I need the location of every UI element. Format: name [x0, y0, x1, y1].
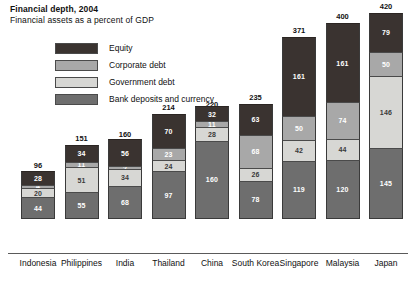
bar-segment-bank[interactable]: 78 [239, 181, 273, 219]
x-axis-line [8, 253, 408, 254]
segment-value-label: 79 [382, 29, 390, 36]
segment-value-label: 51 [77, 177, 85, 184]
bar-segment-equity[interactable]: 79 [369, 13, 403, 52]
segment-value-label: 68 [121, 199, 129, 206]
segment-value-label: 70 [164, 128, 172, 135]
bar-segment-corp[interactable]: 23 [152, 148, 186, 159]
bar-philippines[interactable]: 15134115155 [65, 145, 99, 219]
segment-value-label: 20 [34, 190, 42, 197]
segment-value-label: 161 [293, 73, 305, 80]
bar-total-label: 214 [152, 103, 186, 112]
segment-value-label: 26 [251, 171, 259, 178]
bar-segment-gov[interactable]: 34 [108, 169, 142, 186]
bar-total-label: 96 [21, 161, 55, 170]
bar-segment-gov[interactable]: 51 [65, 167, 99, 192]
bar-indonesia[interactable]: 962842044 [21, 171, 55, 219]
bar-total-label: 420 [369, 2, 403, 11]
bar-segment-equity[interactable]: 70 [152, 114, 186, 148]
segment-value-label: 74 [338, 117, 346, 124]
bar-segment-bank[interactable]: 68 [108, 186, 142, 219]
bar-segment-gov[interactable]: 26 [239, 168, 273, 181]
segment-value-label: 146 [380, 109, 392, 116]
segment-value-label: 161 [336, 60, 348, 67]
segment-value-label: 56 [121, 150, 129, 157]
bar-segment-equity[interactable]: 34 [65, 145, 99, 162]
segment-value-label: 28 [34, 175, 42, 182]
bar-segment-bank[interactable]: 44 [21, 197, 55, 219]
bar-segment-bank[interactable]: 119 [282, 161, 316, 219]
segment-value-label: 50 [295, 125, 303, 132]
x-axis-label-japan: Japan [360, 258, 412, 268]
bar-malaysia[interactable]: 4001617444120 [326, 23, 360, 219]
bar-total-label: 160 [108, 130, 142, 139]
bar-total-label: 371 [282, 26, 316, 35]
segment-value-label: 42 [295, 147, 303, 154]
segment-value-label: 44 [34, 205, 42, 212]
bar-segment-equity[interactable]: 32 [195, 106, 229, 122]
bar-segment-bank[interactable]: 97 [152, 171, 186, 219]
segment-value-label: 32 [208, 111, 216, 118]
segment-value-label: 34 [77, 150, 85, 157]
segment-value-label: 34 [121, 174, 129, 181]
bar-segment-bank[interactable]: 160 [195, 141, 229, 219]
bar-segment-corp[interactable]: 50 [282, 116, 316, 141]
bar-segment-bank[interactable]: 145 [369, 148, 403, 219]
bar-segment-equity[interactable]: 28 [21, 171, 55, 185]
bar-japan[interactable]: 4207950146145 [369, 13, 403, 219]
bar-segment-bank[interactable]: 55 [65, 192, 99, 219]
segment-value-label: 28 [208, 131, 216, 138]
bar-china[interactable]: 220321128160 [195, 106, 229, 219]
bar-segment-bank[interactable]: 120 [326, 160, 360, 219]
plot-area: 9628420441513411515516056234682147023249… [0, 0, 417, 258]
bar-india[interactable]: 1605623468 [108, 139, 142, 219]
bar-segment-gov[interactable]: 44 [326, 139, 360, 161]
segment-value-label: 97 [164, 192, 172, 199]
bar-segment-gov[interactable]: 42 [282, 140, 316, 161]
bar-segment-corp[interactable]: 68 [239, 135, 273, 168]
bar-segment-equity[interactable]: 161 [326, 23, 360, 102]
segment-value-label: 160 [206, 176, 218, 183]
bar-thailand[interactable]: 21470232497 [152, 114, 186, 219]
bar-total-label: 400 [326, 12, 360, 21]
bar-segment-corp[interactable]: 74 [326, 102, 360, 138]
bar-segment-gov[interactable]: 20 [21, 188, 55, 198]
bar-segment-gov[interactable]: 28 [195, 127, 229, 141]
segment-value-label: 44 [338, 146, 346, 153]
segment-value-label: 63 [251, 116, 259, 123]
bar-total-label: 235 [239, 93, 273, 102]
bar-segment-equity[interactable]: 56 [108, 139, 142, 166]
segment-value-label: 78 [251, 196, 259, 203]
segment-value-label: 24 [164, 163, 172, 170]
bar-total-label: 151 [65, 134, 99, 143]
bar-singapore[interactable]: 3711615042119 [282, 37, 316, 219]
bar-segment-gov[interactable]: 24 [152, 160, 186, 172]
chart-container: Financial depth, 2004 Financial assets a… [0, 0, 417, 292]
bar-segment-equity[interactable]: 161 [282, 37, 316, 116]
segment-value-label: 50 [382, 61, 390, 68]
segment-value-label: 119 [293, 186, 305, 193]
bar-segment-corp[interactable]: 50 [369, 52, 403, 77]
bar-south-korea[interactable]: 23563682678 [239, 104, 273, 219]
segment-value-label: 120 [336, 186, 348, 193]
segment-value-label: 145 [380, 180, 392, 187]
segment-value-label: 23 [164, 151, 172, 158]
bar-segment-equity[interactable]: 63 [239, 104, 273, 135]
bar-segment-gov[interactable]: 146 [369, 76, 403, 148]
segment-value-label: 68 [251, 148, 259, 155]
segment-value-label: 55 [77, 202, 85, 209]
